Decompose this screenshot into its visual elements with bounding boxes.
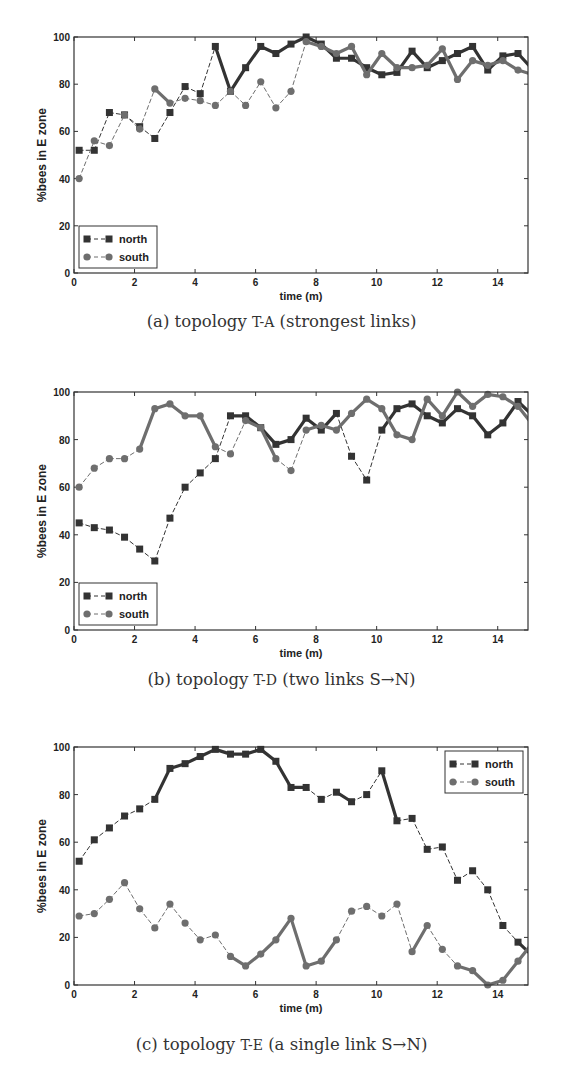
chart-a-plot: 02040608010002468101214time (m)%bees in … bbox=[0, 0, 563, 310]
caption-c-prefix: (c) topology bbox=[136, 1035, 241, 1054]
svg-text:20: 20 bbox=[59, 932, 71, 943]
svg-text:south: south bbox=[119, 251, 149, 263]
svg-text:2: 2 bbox=[132, 989, 138, 1000]
svg-text:10: 10 bbox=[371, 277, 383, 288]
svg-text:4: 4 bbox=[192, 989, 198, 1000]
caption-b-prefix: (b) topology bbox=[147, 670, 253, 689]
svg-text:80: 80 bbox=[59, 435, 71, 446]
chart-panel-c: 02040608010002468101214time (m)%bees in … bbox=[0, 710, 563, 1024]
svg-text:20: 20 bbox=[59, 221, 71, 232]
svg-text:0: 0 bbox=[64, 268, 70, 279]
caption-c-topology: T-E bbox=[240, 1037, 262, 1053]
svg-text:80: 80 bbox=[59, 790, 71, 801]
caption-b-suffix: (two links S→N) bbox=[277, 670, 416, 689]
svg-text:6: 6 bbox=[253, 989, 259, 1000]
svg-text:time (m): time (m) bbox=[280, 290, 323, 302]
svg-text:%bees in E zone: %bees in E zone bbox=[35, 108, 49, 202]
svg-text:north: north bbox=[485, 758, 513, 770]
chart-panel-a: 02040608010002468101214time (m)%bees in … bbox=[0, 0, 563, 314]
svg-text:time (m): time (m) bbox=[280, 1002, 323, 1014]
svg-text:100: 100 bbox=[53, 742, 70, 753]
svg-text:60: 60 bbox=[59, 837, 71, 848]
svg-text:0: 0 bbox=[64, 980, 70, 991]
svg-text:100: 100 bbox=[53, 387, 70, 398]
svg-text:10: 10 bbox=[371, 989, 383, 1000]
svg-text:6: 6 bbox=[253, 277, 259, 288]
svg-text:14: 14 bbox=[492, 989, 504, 1000]
svg-text:north: north bbox=[119, 233, 147, 245]
caption-a-topology: T-A bbox=[252, 314, 274, 330]
svg-text:12: 12 bbox=[432, 634, 444, 645]
svg-text:2: 2 bbox=[132, 634, 138, 645]
svg-text:80: 80 bbox=[59, 79, 71, 90]
svg-text:8: 8 bbox=[313, 277, 319, 288]
caption-c: (c) topology T-E (a single link S→N) bbox=[0, 1035, 563, 1054]
chart-panel-b: 02040608010002468101214time (m)%bees in … bbox=[0, 355, 563, 669]
svg-text:20: 20 bbox=[59, 577, 71, 588]
svg-text:60: 60 bbox=[59, 126, 71, 137]
chart-b-plot: 02040608010002468101214time (m)%bees in … bbox=[0, 355, 563, 665]
legend: northsouth bbox=[79, 583, 157, 625]
svg-text:40: 40 bbox=[59, 530, 71, 541]
svg-text:0: 0 bbox=[71, 634, 77, 645]
caption-a-prefix: (a) topology bbox=[147, 312, 252, 331]
caption-b-topology: T-D bbox=[254, 672, 278, 688]
svg-text:north: north bbox=[119, 590, 147, 602]
legend: northsouth bbox=[79, 226, 157, 268]
svg-text:40: 40 bbox=[59, 885, 71, 896]
svg-text:0: 0 bbox=[64, 625, 70, 636]
legend: northsouth bbox=[445, 751, 523, 793]
caption-a-suffix: (strongest links) bbox=[274, 312, 416, 331]
svg-text:6: 6 bbox=[253, 634, 259, 645]
svg-text:14: 14 bbox=[492, 634, 504, 645]
caption-c-suffix: (a single link S→N) bbox=[263, 1035, 427, 1054]
svg-text:8: 8 bbox=[313, 634, 319, 645]
svg-text:40: 40 bbox=[59, 174, 71, 185]
svg-text:4: 4 bbox=[192, 634, 198, 645]
svg-text:time (m): time (m) bbox=[280, 647, 323, 659]
svg-text:south: south bbox=[485, 776, 515, 788]
svg-text:south: south bbox=[119, 608, 149, 620]
svg-text:%bees in E zone: %bees in E zone bbox=[35, 464, 49, 558]
svg-text:2: 2 bbox=[132, 277, 138, 288]
caption-a: (a) topology T-A (strongest links) bbox=[0, 312, 563, 331]
svg-text:12: 12 bbox=[432, 277, 444, 288]
svg-text:10: 10 bbox=[371, 634, 383, 645]
svg-text:0: 0 bbox=[71, 989, 77, 1000]
chart-c-plot: 02040608010002468101214time (m)%bees in … bbox=[0, 710, 563, 1020]
svg-text:12: 12 bbox=[432, 989, 444, 1000]
svg-text:60: 60 bbox=[59, 482, 71, 493]
svg-text:8: 8 bbox=[313, 989, 319, 1000]
svg-text:%bees in E zone: %bees in E zone bbox=[35, 819, 49, 913]
svg-text:14: 14 bbox=[492, 277, 504, 288]
svg-text:0: 0 bbox=[71, 277, 77, 288]
svg-text:4: 4 bbox=[192, 277, 198, 288]
caption-b: (b) topology T-D (two links S→N) bbox=[0, 670, 563, 689]
svg-text:100: 100 bbox=[53, 32, 70, 43]
